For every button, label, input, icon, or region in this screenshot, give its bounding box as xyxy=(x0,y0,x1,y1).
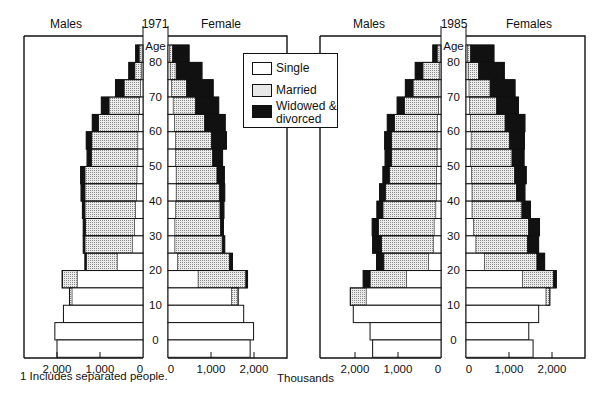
females-heading: Females xyxy=(506,17,552,31)
year-title: 1971 xyxy=(142,17,169,31)
bar-segment xyxy=(434,219,441,236)
bar-segment xyxy=(466,253,484,270)
bar-segment xyxy=(115,80,124,97)
bar-segment xyxy=(476,236,528,253)
bar-segment xyxy=(472,184,516,201)
bar-segment xyxy=(77,271,143,288)
bar-segment xyxy=(512,149,524,166)
bar-segment xyxy=(175,132,211,149)
bar-segment xyxy=(468,62,478,79)
footnote: 1 Includes separated people. xyxy=(20,370,168,382)
pyramid-1985: Males1985FemalesAge807060504030201002,00… xyxy=(320,17,585,375)
bar-segment xyxy=(129,62,135,79)
bar-segment xyxy=(373,236,382,253)
bar-segment xyxy=(177,253,229,270)
bar-segment xyxy=(383,166,389,183)
legend-label-widowed: Widowed & divorced xyxy=(276,100,337,126)
bar-segment xyxy=(168,97,173,114)
x-tick-zero: 0 xyxy=(466,363,472,375)
x-tick: 1,000 xyxy=(495,363,524,375)
legend-label-widowed-line1: Widowed & xyxy=(276,99,337,113)
bar-segment xyxy=(211,132,226,149)
bar-segment xyxy=(86,253,117,270)
bar-segment xyxy=(138,149,143,166)
bar-segment xyxy=(473,219,528,236)
age-tick: 0 xyxy=(450,334,456,346)
bar-segment xyxy=(168,305,244,322)
age-tick: 10 xyxy=(447,299,460,311)
bar-segment xyxy=(437,132,441,149)
bar-segment xyxy=(466,132,471,149)
bar-segment xyxy=(170,62,176,79)
bar-segment xyxy=(392,149,438,166)
x-tick: 1,000 xyxy=(384,363,413,375)
bar-segment xyxy=(174,114,204,131)
bar-segment xyxy=(220,184,225,201)
age-tick: 0 xyxy=(152,334,158,346)
x-tick-zero: 0 xyxy=(168,363,174,375)
bar-segment xyxy=(537,253,545,270)
bar-segment xyxy=(384,253,429,270)
bar-segment xyxy=(168,184,176,201)
bar-segment xyxy=(220,201,224,218)
age-axis-label: Age xyxy=(443,40,463,52)
bar-segment xyxy=(170,45,173,62)
bar-segment xyxy=(176,184,219,201)
bar-segment xyxy=(92,132,138,149)
bar-segment xyxy=(379,219,434,236)
bar-segment xyxy=(515,166,527,183)
bar-segment xyxy=(173,97,195,114)
bar-segment xyxy=(196,97,219,114)
bar-segment xyxy=(85,219,134,236)
bar-segment xyxy=(92,114,98,131)
bar-segment xyxy=(124,80,140,97)
bar-segment xyxy=(437,45,440,62)
bar-segment xyxy=(466,184,472,201)
bar-segment xyxy=(466,97,469,114)
bar-segment xyxy=(472,166,515,183)
bar-segment xyxy=(466,166,472,183)
bar-segment xyxy=(436,184,441,201)
age-tick: 50 xyxy=(149,160,162,172)
bar-segment xyxy=(387,114,394,131)
bar-segment xyxy=(484,253,536,270)
widowed-swatch-icon xyxy=(252,105,272,118)
bar-segment xyxy=(466,236,476,253)
bar-segment xyxy=(168,201,176,218)
bar-segment xyxy=(370,323,441,340)
bar-segment xyxy=(471,45,494,62)
bar-segment xyxy=(55,323,143,340)
x-tick: 2,000 xyxy=(240,363,269,375)
bar-segment xyxy=(101,97,109,114)
bar-segment xyxy=(63,305,143,322)
age-tick: 80 xyxy=(149,56,162,68)
x-tick: 2,000 xyxy=(341,363,370,375)
bar-segment xyxy=(385,132,392,149)
bar-segment xyxy=(509,132,524,149)
bar-segment xyxy=(135,62,141,79)
bar-segment xyxy=(516,184,525,201)
bar-segment xyxy=(136,45,139,62)
females-heading: Female xyxy=(201,17,241,31)
bar-segment xyxy=(198,271,246,288)
bar-segment xyxy=(497,97,519,114)
bar-segment xyxy=(478,62,504,79)
bar-segment xyxy=(136,201,143,218)
x-tick: 1,000 xyxy=(197,363,226,375)
bar-segment xyxy=(437,149,441,166)
age-tick: 50 xyxy=(447,160,460,172)
bar-segment xyxy=(386,184,437,201)
bar-segment xyxy=(382,236,434,253)
chart-legend: Single Married Widowed & divorced xyxy=(243,53,338,128)
bar-segment xyxy=(132,236,143,253)
bar-segment xyxy=(522,201,531,218)
bar-segment xyxy=(395,114,438,131)
bar-segment xyxy=(383,201,436,218)
bar-segment xyxy=(99,114,139,131)
bar-segment xyxy=(471,132,509,149)
bar-segment xyxy=(404,97,438,114)
bar-segment xyxy=(505,114,525,131)
bar-segment xyxy=(350,288,366,305)
bar-segment xyxy=(168,340,250,357)
bar-segment xyxy=(392,132,438,149)
